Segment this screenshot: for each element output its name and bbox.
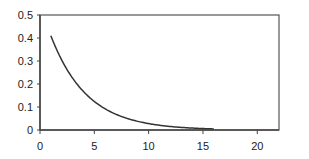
y-tick-label: 0.2 xyxy=(18,78,33,90)
y-tick-label: 0.3 xyxy=(18,55,33,67)
y-tick-label: 0.1 xyxy=(18,101,33,113)
decay-line-chart: 00.10.20.30.40.5 05101520 xyxy=(0,0,309,159)
x-tick-label: 20 xyxy=(251,140,263,152)
y-tick-label: 0.4 xyxy=(18,32,33,44)
x-tick-label: 15 xyxy=(197,140,209,152)
y-tick-label: 0.5 xyxy=(18,9,33,21)
x-tick-label: 5 xyxy=(91,140,97,152)
y-axis: 00.10.20.30.40.5 xyxy=(18,9,40,136)
plot-area xyxy=(40,15,279,130)
x-tick-label: 0 xyxy=(37,140,43,152)
y-tick-label: 0 xyxy=(27,124,33,136)
x-axis: 05101520 xyxy=(37,130,263,152)
x-tick-label: 10 xyxy=(143,140,155,152)
